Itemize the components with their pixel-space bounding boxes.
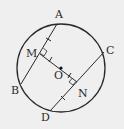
tick-mo <box>49 57 52 62</box>
label-o: O <box>54 69 63 82</box>
circle-chords-figure: A B C D M O N <box>0 0 124 129</box>
label-d: D <box>41 111 50 124</box>
geometry-diagram: A B C D M O N <box>0 0 124 129</box>
label-n: N <box>78 87 88 100</box>
label-b: B <box>11 84 19 97</box>
label-m: M <box>26 47 37 60</box>
label-a: A <box>54 8 64 21</box>
label-c: C <box>106 44 114 57</box>
